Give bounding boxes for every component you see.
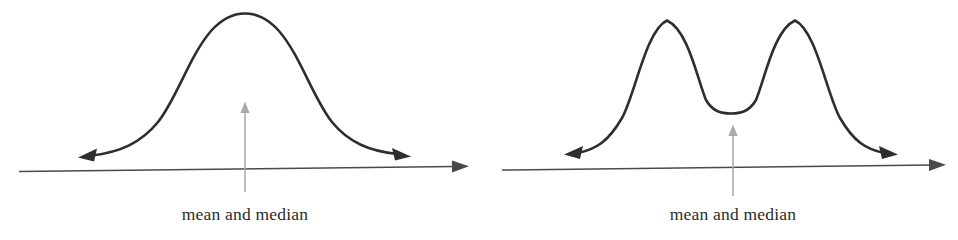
mean-median-up-arrow-icon (240, 102, 249, 114)
panel-symmetric-unimodal: mean and median (19, 14, 469, 225)
panel-caption: mean and median (670, 204, 796, 224)
curve-left-tail-arrow-icon (564, 146, 583, 159)
horizontal-axis-line (19, 167, 455, 172)
panel-caption: mean and median (182, 204, 308, 224)
horizontal-axis-line (502, 165, 932, 170)
distribution-figure-pair: mean and median mean and median (0, 0, 958, 240)
curve-left-tail-arrow-icon (78, 149, 97, 162)
mean-median-up-arrow-icon (728, 125, 737, 137)
figures-canvas: mean and median mean and median (0, 0, 958, 240)
axis-right-arrow-icon (452, 161, 469, 173)
curve-right-tail-arrow-icon (392, 148, 411, 161)
curve-right-tail-arrow-icon (879, 146, 898, 159)
axis-right-arrow-icon (929, 159, 946, 171)
panel-symmetric-bimodal: mean and median (502, 21, 946, 225)
